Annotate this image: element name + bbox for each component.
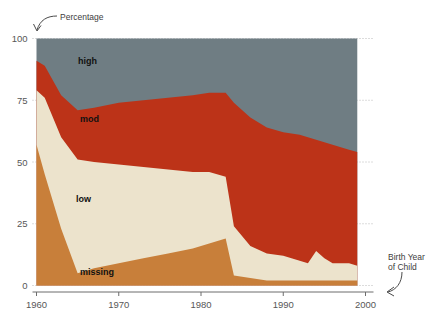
x-tick-label-1990: 1990 bbox=[273, 299, 294, 310]
axes-group bbox=[33, 292, 374, 296]
band-label-missing: missing bbox=[80, 267, 114, 277]
x-tick-label-2000: 2000 bbox=[355, 299, 376, 310]
y-tick-label-25: 25 bbox=[17, 218, 28, 229]
y-tick-label-0: 0 bbox=[22, 280, 27, 291]
x-tick-label-1970: 1970 bbox=[108, 299, 129, 310]
y-tick-label-75: 75 bbox=[17, 95, 28, 106]
band-label-mod: mod bbox=[80, 114, 99, 124]
percentage-arrow-icon bbox=[37, 16, 57, 30]
band-label-low: low bbox=[76, 194, 92, 204]
band-label-high: high bbox=[78, 56, 97, 66]
y-tick-labels-group: 0255075100 bbox=[12, 33, 28, 291]
stacked-area-chart: 0255075100 19601970198019902000 highmodl… bbox=[0, 0, 446, 316]
birthyear-arrow-icon bbox=[388, 272, 402, 292]
y-tick-label-50: 50 bbox=[17, 157, 28, 168]
x-tick-label-1980: 1980 bbox=[190, 299, 211, 310]
area-bands-group bbox=[37, 39, 358, 286]
y-tick-label-100: 100 bbox=[12, 33, 28, 44]
x-tick-labels-group: 19601970198019902000 bbox=[26, 299, 376, 310]
percentage-arrowhead-icon bbox=[34, 24, 42, 31]
x-tick-label-1960: 1960 bbox=[26, 299, 47, 310]
